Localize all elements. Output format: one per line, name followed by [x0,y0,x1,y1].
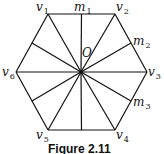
hexagon-diagram: v1v2v3v4v5v6m1m2m3O Figure 2.11 [0,0,164,154]
label-O: O [82,46,92,60]
label-v4: v4 [116,128,129,144]
spoke-to-vertex [81,72,115,130]
spoke-to-midpoint [81,72,82,130]
label-v2: v2 [116,0,129,16]
label-v3: v3 [148,65,161,81]
figure-caption: Figure 2.11 [48,142,111,154]
center-point [79,70,83,74]
label-v1: v1 [36,0,49,16]
spoke-to-vertex [48,72,81,130]
label-m2: m2 [133,34,150,50]
label-m3: m3 [133,95,150,111]
spoke-to-vertex [48,14,81,72]
spoke-to-midpoint [81,14,82,72]
spoke-to-midpoint [32,72,81,101]
label-v5: v5 [36,128,49,144]
label-m1: m1 [74,0,91,16]
label-v6: v6 [2,65,15,81]
spoke-to-midpoint [81,72,131,101]
spoke-to-vertex [81,14,115,72]
spoke-to-midpoint [32,43,81,72]
